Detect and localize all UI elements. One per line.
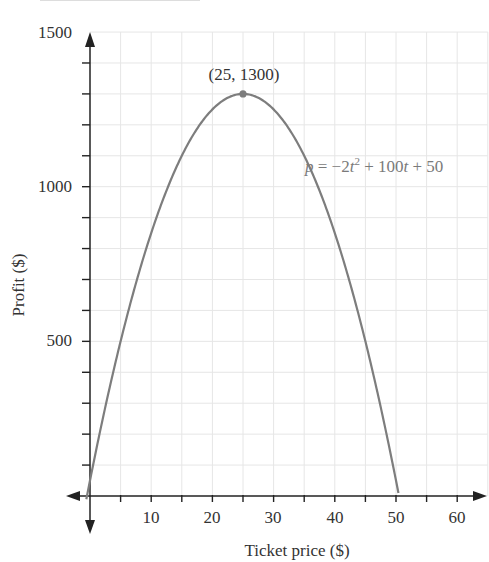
y-axis-up-arrow-icon xyxy=(85,32,95,47)
axes xyxy=(66,32,487,534)
equation-end: + 50 xyxy=(408,157,443,176)
y-axis-label: Profit ($) xyxy=(9,254,28,317)
y-tick-label-1000: 1000 xyxy=(38,177,72,196)
equation-eq: = −2 xyxy=(314,157,350,176)
y-tick-label-500: 500 xyxy=(47,331,73,350)
x-axis-right-arrow-icon xyxy=(473,491,487,501)
profit-curve xyxy=(86,94,398,499)
x-axis-left-arrow-icon xyxy=(66,491,80,501)
x-tick-label-20: 20 xyxy=(204,508,221,527)
x-tick-label-60: 60 xyxy=(449,508,466,527)
y-axis-down-arrow-icon xyxy=(85,520,95,534)
x-tick-label-30: 30 xyxy=(265,508,282,527)
x-tick-label-40: 40 xyxy=(327,508,344,527)
equation-mid: + 100 xyxy=(360,157,404,176)
ticks xyxy=(82,63,457,502)
y-tick-label-1500: 1500 xyxy=(38,23,72,42)
x-tick-label-50: 50 xyxy=(388,508,405,527)
x-tick-label-10: 10 xyxy=(143,508,160,527)
profit-chart: 10 20 30 40 50 60 500 1000 1500 (25, 130… xyxy=(0,0,489,562)
equation-label: p = −2t2 + 100t + 50 xyxy=(304,155,443,176)
tick-labels: 10 20 30 40 50 60 500 1000 1500 xyxy=(38,23,466,527)
vertex-point xyxy=(239,90,246,97)
x-axis-label: Ticket price ($) xyxy=(244,541,349,560)
grid xyxy=(90,32,488,496)
equation-p: p xyxy=(304,157,314,176)
vertex-label: (25, 1300) xyxy=(209,65,280,84)
